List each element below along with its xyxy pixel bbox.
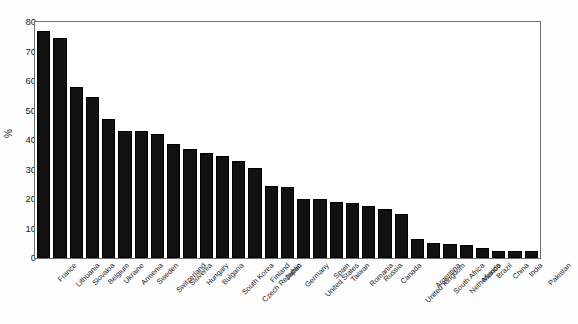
bar: [183, 149, 196, 258]
bar-chart: % 01020304050607080 FranceLithuaniaSlova…: [0, 0, 578, 324]
bar: [216, 156, 229, 258]
bar: [460, 245, 473, 258]
bar: [330, 202, 343, 258]
bar: [281, 187, 294, 258]
bar: [427, 243, 440, 258]
x-tick-label: Germany: [302, 261, 330, 289]
bar: [362, 206, 375, 258]
bar: [265, 186, 278, 258]
bar: [492, 251, 505, 258]
bar: [53, 38, 66, 258]
x-axis-labels: FranceLithuaniaSlovakiaBelgiumUkraineArm…: [35, 261, 540, 323]
bar: [102, 119, 115, 258]
bar: [476, 248, 489, 258]
bar: [378, 209, 391, 258]
bar: [167, 144, 180, 258]
bar: [200, 153, 213, 258]
bar: [232, 161, 245, 258]
bar: [313, 199, 326, 258]
bar: [395, 214, 408, 258]
bar: [70, 87, 83, 258]
bar: [346, 203, 359, 258]
bar: [151, 134, 164, 258]
bar: [443, 244, 456, 258]
bar: [248, 168, 261, 258]
bar: [37, 31, 50, 258]
bar: [525, 251, 538, 258]
bar: [297, 199, 310, 258]
x-tick-label: Pakistan: [546, 261, 572, 287]
bar: [508, 251, 521, 258]
bar-series: [35, 22, 540, 258]
bar: [118, 131, 131, 258]
bar: [86, 97, 99, 258]
y-axis-label: %: [3, 129, 14, 138]
bar: [411, 239, 424, 258]
bar: [135, 131, 148, 258]
x-tick-label: India: [526, 261, 544, 279]
